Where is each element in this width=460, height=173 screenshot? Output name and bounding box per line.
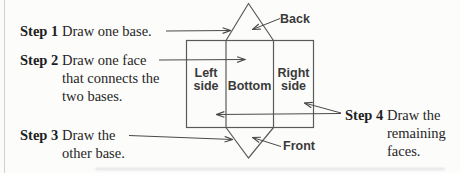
- prism-net-figure: Step 1 Draw one base. Step 2 Draw one fa…: [0, 0, 460, 173]
- right-side-label-line1: Right: [278, 66, 310, 80]
- front-label-arrow: [253, 138, 282, 147]
- step-3-label: Step 3: [20, 127, 58, 143]
- step-4-text-line2: remaining: [387, 125, 446, 141]
- step-4-label: Step 4: [345, 107, 383, 123]
- left-side-label-line2: side: [193, 79, 218, 93]
- step-4-text-line3: faces.: [387, 143, 420, 159]
- back-label-arrow: [253, 19, 281, 30]
- step-3-text-line1: Draw the: [62, 127, 116, 143]
- step-4: Step 4 Draw the remaining faces.: [345, 106, 446, 160]
- step-2-text-line3: two bases.: [62, 88, 122, 104]
- step-2-text-line2: that connects the: [62, 70, 159, 86]
- step-3: Step 3 Draw the other base.: [20, 126, 125, 162]
- step4-arrow-upper: [305, 103, 342, 113]
- step-1-label: Step 1: [20, 23, 58, 39]
- step1-arrow: [166, 31, 231, 32]
- right-side-label-line2: side: [281, 79, 306, 93]
- net-bottom-triangle: [226, 128, 274, 159]
- step-4-text-line1: Draw the: [387, 107, 441, 123]
- back-label: Back: [280, 13, 310, 26]
- step4-arrow-lower: [217, 114, 342, 115]
- step-3-text-line2: other base.: [62, 145, 125, 161]
- step3-arrow: [129, 136, 233, 140]
- step-2-text-line1: Draw one face: [62, 52, 147, 68]
- step-1-text-line1: Draw one base.: [62, 23, 152, 39]
- front-label: Front: [283, 140, 315, 153]
- left-side-label: Left side: [187, 67, 226, 93]
- left-side-label-line1: Left: [195, 66, 218, 80]
- step-2-label: Step 2: [20, 52, 58, 68]
- right-side-label: Right side: [274, 67, 314, 93]
- step-1: Step 1 Draw one base.: [20, 22, 152, 40]
- step2-arrow: [159, 60, 245, 61]
- net-top-triangle: [226, 4, 274, 41]
- bottom-label: Bottom: [226, 80, 273, 93]
- step-2: Step 2 Draw one face that connects the t…: [20, 51, 159, 105]
